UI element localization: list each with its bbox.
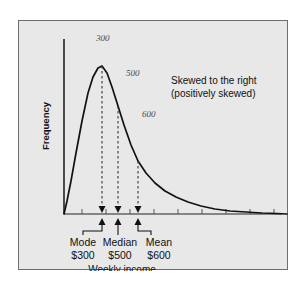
mean-label-name: Mean [146,236,172,248]
median-label-value: $500 [108,249,132,261]
skew-note-line-2: (positively skewed) [171,88,255,99]
figure-frame: Frequency 300 500 600 Skewed to the righ… [18,20,288,270]
marker-arrowheads-down [99,206,142,213]
mode-label-name: Mode [70,236,96,248]
skewed-distribution-chart: Frequency 300 500 600 Skewed to the righ… [19,21,289,271]
y-axis-title: Frequency [40,101,51,150]
mean-leader [138,225,151,235]
marker-dashed-lines [102,66,138,211]
mode-label-value: $300 [71,249,95,261]
mid-annotation-500: 500 [126,68,140,78]
x-axis-title: Weekly income [88,264,156,271]
median-label-name: Median [103,236,138,248]
tail-annotation-600: 600 [142,109,156,119]
label-leader-lines [83,225,151,235]
peak-annotation-300: 300 [95,33,110,43]
figure-page: Frequency 300 500 600 Skewed to the righ… [0,0,302,283]
mean-label-value: $600 [147,249,171,261]
skew-note-line-1: Skewed to the right [171,75,257,86]
mode-leader [83,225,102,235]
marker-arrowheads-up [99,218,142,225]
